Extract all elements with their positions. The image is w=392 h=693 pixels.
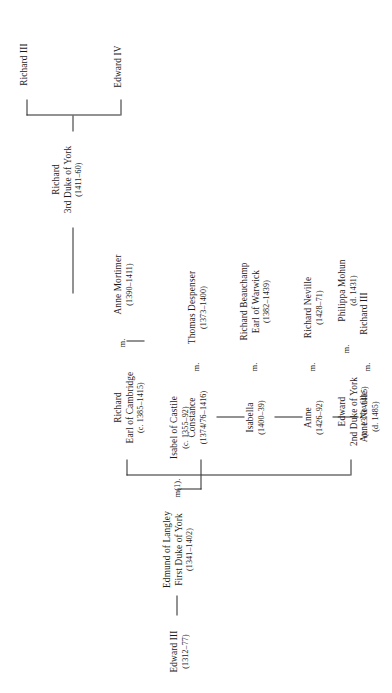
person-dates: (c. 1385–1415) (135, 355, 145, 459)
person-dates: (1312–77) (180, 615, 190, 687)
person-dates: (c. 1373–1415) (359, 363, 369, 459)
person-name: Anne (302, 381, 314, 453)
marriage-marker-anne: m. (306, 362, 316, 371)
person-dates: (1400–39) (256, 379, 266, 455)
person-name-line2: Earl of Cambridge (124, 355, 136, 459)
person-philippa-mohun: Philippa Mohun (d. 1431) (336, 245, 358, 335)
bracket-spine-sons (26, 114, 120, 115)
marriage-marker-isabella: m. (248, 362, 258, 371)
person-dates: (1382–1439) (261, 249, 271, 353)
person-dates: (1341–1402) (184, 503, 194, 595)
person-edward-iv: Edward IV (112, 33, 124, 99)
person-dates: (1411–60) (73, 131, 83, 227)
line-to-3rd-duke (72, 227, 73, 293)
bracket-arm-richard-iii (26, 99, 27, 115)
person-dates: (1373–1400) (198, 261, 208, 353)
person-name: Constance (186, 375, 198, 459)
person-name-line2: 2nd Duke of York (348, 363, 360, 459)
person-name: Edward IV (112, 33, 124, 99)
bracket-arm-edward-iv (120, 99, 121, 115)
person-name: Edmund of Langley (161, 503, 173, 595)
children-spine (200, 474, 350, 475)
person-name: Edward (336, 363, 348, 459)
marriage-marker-cambridge: m. (116, 338, 126, 347)
person-name: Anne Mortimer (112, 239, 124, 329)
person-dates: (1426–92) (314, 381, 324, 453)
person-name: Philippa Mohun (336, 245, 348, 335)
person-name: Richard Neville (302, 261, 314, 353)
person-constance: Constance (1374/76–1416) (186, 375, 208, 459)
person-thomas-despenser: Thomas Despenser (1373–1400) (186, 261, 208, 353)
marriage-drop-vertical (177, 488, 201, 489)
person-edward-2nd-duke-of-york: Edward 2nd Duke of York (c. 1373–1415) (336, 363, 370, 459)
person-name-line2: 3rd Duke of York (62, 131, 74, 227)
child-arm-constance (200, 459, 201, 475)
person-name: Isabel of Castile (168, 383, 180, 471)
person-dates: (d. 1431) (348, 245, 358, 335)
person-richard-beauchamp: Richard Beauchamp Earl of Warwick (1382–… (238, 249, 272, 353)
person-richard-iii-consort: Richard III (358, 273, 370, 353)
line-isabella-to-anne (274, 416, 302, 417)
person-name-line2: First Duke of York (173, 503, 185, 595)
children-spine-upper (126, 474, 200, 475)
person-anne-mortimer: Anne Mortimer (1390–1411) (112, 239, 134, 329)
child-arm-richard-cambridge (126, 459, 127, 475)
bracket-stem-3rd-duke (72, 115, 73, 131)
person-edmund-of-langley: Edmund of Langley First Duke of York (13… (161, 503, 195, 595)
marriage-marker-constance: m. (190, 362, 200, 371)
line-cambridge-to-3rd-duke (126, 340, 144, 341)
person-isabella: Isabella (1400–39) (244, 379, 266, 455)
person-name: Richard III (358, 273, 370, 353)
children-connector (200, 475, 201, 489)
person-name: Edward III (168, 615, 180, 687)
person-dates: (1390–1411) (124, 239, 134, 329)
person-name: Richard (112, 355, 124, 459)
person-name: Thomas Despenser (186, 261, 198, 353)
person-dates: (1428–71) (314, 261, 324, 353)
person-richard-neville: Richard Neville (1428–71) (302, 261, 324, 353)
marriage-marker-edward-2nd: m. (340, 344, 350, 353)
person-richard-3rd-duke-of-york: Richard 3rd Duke of York (1411–60) (50, 131, 84, 227)
person-dates: (1374/76–1416) (198, 375, 208, 459)
person-name-line2: Earl of Warwick (250, 249, 262, 353)
person-richard-iii: Richard III (18, 29, 30, 99)
person-name: Richard (50, 131, 62, 227)
person-name: Isabella (244, 379, 256, 455)
line-constance-to-isabella (216, 416, 244, 417)
descent-line-edwardiii-edmund (176, 595, 177, 615)
child-arm-edward-2nd-york (350, 459, 351, 475)
person-richard-earl-of-cambridge: Richard Earl of Cambridge (c. 1385–1415) (112, 355, 146, 459)
person-anne: Anne (1426–92) (302, 381, 324, 453)
person-edward-iii: Edward III (1312–77) (168, 615, 190, 687)
family-tree-canvas: Edward III (1312–77) Edmund of Langley F… (0, 0, 392, 693)
person-dates: (d. 1485) (370, 375, 380, 457)
person-name: Richard III (18, 29, 30, 99)
person-name: Richard Beauchamp (238, 249, 250, 353)
